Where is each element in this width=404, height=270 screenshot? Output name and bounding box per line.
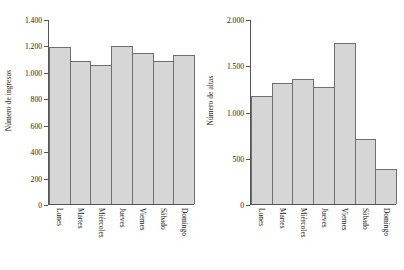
- chart-panel-right: Número de altas 05001.0001.5002.000 Lune…: [202, 0, 404, 270]
- y-tick-mark: [44, 99, 48, 100]
- y-tick-label: 0: [240, 201, 244, 210]
- bar: [292, 79, 314, 204]
- y-tick-mark: [44, 20, 48, 21]
- x-axis-label: Lunes: [251, 206, 272, 268]
- bar: [251, 96, 273, 204]
- bar: [313, 87, 335, 204]
- x-axis-label-text: Miércoles: [298, 208, 307, 238]
- y-tick-mark: [44, 179, 48, 180]
- bar: [355, 139, 377, 204]
- x-axis-label: Martes: [70, 206, 91, 268]
- x-axis-label: Domingo: [375, 206, 396, 268]
- y-tick-label: 600: [31, 121, 42, 130]
- plot-area-right: 05001.0001.5002.000: [250, 20, 396, 205]
- y-tick-mark: [44, 205, 48, 206]
- x-axis-label-text: Sábado: [360, 208, 369, 230]
- x-axis-label-text: Miércoles: [96, 208, 105, 238]
- bar: [153, 61, 175, 204]
- y-tick-label: 400: [31, 148, 42, 157]
- y-tick-mark: [44, 152, 48, 153]
- bar: [334, 43, 356, 204]
- x-axis-line-right: [250, 204, 396, 205]
- y-tick-label: 500: [233, 154, 244, 163]
- x-axis-label-text: Martes: [278, 208, 287, 229]
- y-axis-title-right-text: Número de altas: [207, 75, 216, 125]
- y-tick-label: 1.000: [227, 108, 244, 117]
- x-axis-label-text: Sábado: [158, 208, 167, 230]
- x-axis-label: Jueves: [313, 206, 334, 268]
- figure: Número de ingresos 02004006008001.0001.2…: [0, 0, 404, 270]
- x-axis-label: Viernes: [132, 206, 153, 268]
- y-tick-mark: [246, 66, 250, 67]
- x-axis-label-text: Viernes: [340, 208, 349, 231]
- x-axis-label: Jueves: [111, 206, 132, 268]
- x-axis-label-text: Domingo: [179, 208, 188, 236]
- bar: [272, 83, 294, 204]
- x-axis-label: Martes: [272, 206, 293, 268]
- y-tick-label: 800: [31, 95, 42, 104]
- x-axis-label-text: Martes: [76, 208, 85, 229]
- y-axis-title-left: Número de ingresos: [2, 0, 16, 200]
- x-axis-label-text: Jueves: [319, 208, 328, 228]
- bar-series-left: [49, 20, 194, 204]
- y-tick-label: 1.200: [25, 42, 42, 51]
- x-axis-labels-left: LunesMartesMiércolesJuevesViernesSábadoD…: [49, 206, 194, 268]
- x-axis-label: Miércoles: [292, 206, 313, 268]
- y-axis-title-right: Número de altas: [204, 0, 218, 200]
- y-tick-label: 1.000: [25, 68, 42, 77]
- y-tick-label: 200: [31, 174, 42, 183]
- y-tick-label: 1.500: [227, 62, 244, 71]
- bar: [70, 61, 92, 204]
- y-tick-mark: [246, 113, 250, 114]
- x-axis-line-left: [48, 204, 194, 205]
- chart-panel-left: Número de ingresos 02004006008001.0001.2…: [0, 0, 202, 270]
- y-tick-label: 0: [38, 201, 42, 210]
- bar: [132, 53, 154, 204]
- bar: [375, 169, 397, 204]
- x-axis-label: Viernes: [334, 206, 355, 268]
- x-axis-label: Domingo: [173, 206, 194, 268]
- y-tick-mark: [246, 20, 250, 21]
- y-tick-mark: [44, 126, 48, 127]
- x-axis-label-text: Lunes: [257, 208, 266, 226]
- y-tick-mark: [44, 46, 48, 47]
- bar: [90, 65, 112, 204]
- y-tick-label: 2.000: [227, 16, 244, 25]
- bar: [49, 47, 71, 204]
- y-tick-mark: [246, 205, 250, 206]
- x-axis-label-text: Jueves: [117, 208, 126, 228]
- x-axis-labels-right: LunesMartesMiércolesJuevesViernesSábadoD…: [251, 206, 396, 268]
- x-axis-label-text: Lunes: [55, 208, 64, 226]
- y-tick-label: 1.400: [25, 16, 42, 25]
- y-tick-mark: [246, 159, 250, 160]
- x-axis-label-text: Viernes: [138, 208, 147, 231]
- x-axis-label: Sábado: [355, 206, 376, 268]
- bar-series-right: [251, 20, 396, 204]
- bar: [173, 55, 195, 204]
- plot-area-left: 02004006008001.0001.2001.400: [48, 20, 194, 205]
- x-axis-label: Lunes: [49, 206, 70, 268]
- y-axis-title-left-text: Número de ingresos: [5, 69, 14, 130]
- x-axis-label-text: Domingo: [381, 208, 390, 236]
- x-axis-label: Sábado: [153, 206, 174, 268]
- bar: [111, 46, 133, 204]
- y-tick-mark: [44, 73, 48, 74]
- x-axis-label: Miércoles: [90, 206, 111, 268]
